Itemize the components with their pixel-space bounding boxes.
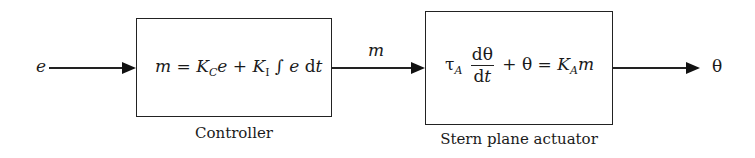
controller-caption: Controller [136,124,332,142]
eq-m-2: m [578,54,594,74]
fraction-numerator: dθ [471,46,494,66]
middle-arrowhead [411,62,425,74]
intermediate-signal-label: m [368,40,384,60]
integral-symbol: ∫ [275,56,284,76]
derivative-fraction: dθ dt [471,46,494,85]
actuator-equation: τA dθ dt + θ = KAm [445,46,594,85]
controller-equation: m = KCe + KI ∫ e dt [155,56,322,79]
eq-tau: τ [445,54,454,74]
eq-equals: = [177,56,191,76]
eq-ka-sub: A [570,64,578,77]
eq-theta: θ [522,54,532,74]
eq-e1: e [217,56,227,76]
den-t: t [484,66,491,86]
output-signal-label: θ [712,56,722,76]
eq-plus: + [233,56,247,76]
middle-arrow-line [332,67,414,69]
input-arrow-line [49,67,125,69]
eq-ka: K [557,54,570,74]
eq-kc: K [196,56,209,76]
eq-d: d [305,56,316,76]
eq-m: m [155,56,171,76]
eq-equals-2: = [538,54,552,74]
input-signal-label: e [36,56,46,76]
den-d: d [473,66,484,86]
output-arrowhead [686,62,700,74]
input-arrowhead [122,62,136,74]
actuator-caption: Stern plane actuator [425,130,613,148]
eq-t: t [316,56,323,76]
fraction-denominator: dt [471,66,494,85]
eq-tau-sub: A [454,64,462,77]
eq-ki: K [252,56,265,76]
eq-plus-2: + [502,54,516,74]
eq-e2: e [289,56,299,76]
eq-ki-sub: I [265,66,269,79]
output-arrow-line [613,67,689,69]
